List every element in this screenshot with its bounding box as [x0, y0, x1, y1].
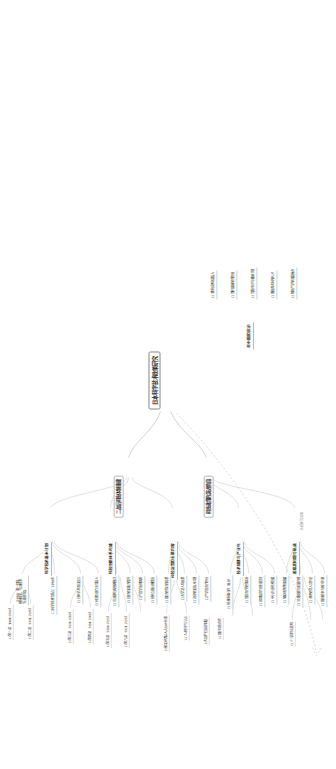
level1-node-history[interactable]: 二战后科技体制重建 — [113, 475, 123, 517]
mindmap-rotated-layer: 日本科学技术政策研究 二战后科技体制重建 科技政策的演进阶段 科学技术基本计划 … — [0, 0, 336, 769]
level2-node-implications[interactable]: 对中国的启示 — [246, 322, 253, 349]
level3-node[interactable]: （1950）第一阶段： 模仿欧美，引进技术 为主的阶段 — [15, 575, 28, 605]
level3-node[interactable]: ☐ 国际竞争力相对下滑 — [321, 575, 327, 607]
level3-node[interactable]: ☐ 研发经费增长放缓 — [283, 575, 289, 604]
level3-node[interactable]: ☐ 产官学协同创新 — [139, 575, 145, 601]
level3-node[interactable]: ☐ 日本学术会议设立 — [77, 575, 83, 604]
level4-node[interactable]: ☐ 第二期（2001–2005） — [27, 605, 33, 640]
level2-node-innovation-system[interactable]: 科技创新体系构建 — [108, 541, 115, 575]
root-node[interactable]: 日本科学技术政策研究 — [148, 351, 160, 409]
level3-node[interactable]: ☐ 强化基础研究布局 — [231, 270, 237, 299]
level3-node[interactable]: ☐ 推进产学研深度融合 — [291, 267, 297, 299]
level2-node-basic-plan[interactable]: 科学技术基本计划 — [44, 541, 51, 575]
level2-node-policy-content[interactable]: 科技政策的主要内容 — [170, 541, 177, 579]
level4-node[interactable]: ☐ 第一期（1996–2000） — [7, 605, 13, 640]
level4-node[interactable]: ☐ 第六期（2021–2025） — [123, 613, 129, 648]
level3-node[interactable]: ☐ 技术转移机构（TLO） — [227, 575, 233, 610]
level3-node[interactable]: ☐ 科学技术厅成立：1956年 — [51, 575, 57, 614]
mindmap-canvas: 日本科学技术政策研究 二战后科技体制重建 科技政策的演进阶段 科学技术基本计划 … — [0, 0, 336, 769]
level3-node[interactable]: ☐ 论文数量与质量下降 — [297, 575, 303, 607]
level3-node[interactable]: ☐ 大学法人化改革 — [181, 575, 187, 601]
level3-node[interactable]: ☐ 坚持长期稳定投入 — [211, 270, 217, 299]
connector-lines — [0, 0, 336, 769]
level4-node[interactable]: ☐ 少子高龄化影响 — [289, 621, 295, 646]
level4-node[interactable]: ☐ 人才培养与引进 — [183, 615, 189, 640]
level3-node[interactable]: ☐ 自主研发能力提升 — [127, 575, 133, 604]
relation-label: 比较研究关联 — [300, 512, 303, 529]
level3-node[interactable]: ☐ 国立研究机构改革 — [165, 575, 171, 604]
level3-node[interactable]: ☐ 风险投资与创业支持 — [259, 575, 265, 607]
level4-node[interactable]: ☐ 第五期（2016–2020） — [105, 613, 111, 648]
level3-node[interactable]: ☐ 技术立国战略提出 — [151, 575, 157, 604]
level2-node-challenges[interactable]: 面临的问题与挑战 — [292, 541, 299, 575]
level4-node[interactable]: ☐ 第三期（2006–2010） — [67, 609, 73, 644]
level4-node[interactable]: ☐ 第四期（2011–2015） — [87, 609, 93, 644]
level3-node[interactable]: ☐ 中小企业技术支援 — [271, 575, 277, 604]
level1-node-policy-system[interactable]: 科技政策的演进阶段 — [203, 475, 213, 517]
level4-node[interactable]: ☐ 知识产权保护制度 — [203, 617, 209, 645]
level3-node[interactable]: ☐ 重视青年科研人才 — [271, 270, 277, 299]
level3-node[interactable]: ☐ 经济企划厅主导投入 — [95, 575, 101, 607]
level3-node[interactable]: ☐ 企业研发投入机制 — [193, 575, 199, 604]
level3-node[interactable]: ☐ 官官合作研究促进 — [245, 575, 251, 604]
level2-node-tech-transfer[interactable]: 技术转移与产业化 — [236, 541, 243, 575]
level3-node[interactable]: ☐ 完善评价与激励机制 — [251, 267, 257, 299]
level3-node[interactable]: ☐ 年轻研究人员不足 — [309, 575, 315, 604]
level3-node[interactable]: ☐ 引进消化再创新模式 — [113, 575, 119, 607]
level4-node[interactable]: ☐ 研发经费投入占GDP比重 — [163, 615, 169, 652]
level4-node[interactable]: ☐ 国际科技合作 — [217, 617, 223, 639]
level3-node[interactable]: ☐ 产学官合作平台 — [205, 575, 211, 601]
